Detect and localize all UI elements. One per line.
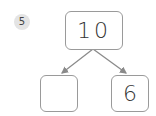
part-box-known: 6 [111,75,149,112]
arrow-right [93,49,126,73]
part-box-empty[interactable] [40,75,78,112]
arrow-left [62,49,93,73]
whole-box: 10 [65,11,123,50]
